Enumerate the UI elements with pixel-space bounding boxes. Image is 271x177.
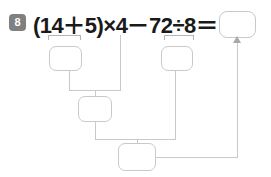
connector-level3-horizontal [95, 139, 176, 140]
equation-expression: (14＋5)×4－72÷8＝ [33, 8, 217, 38]
connector-arrow-vertical [237, 41, 238, 158]
connector-into-difference-box [137, 139, 138, 144]
step-box-sum[interactable] [49, 46, 82, 71]
problem-number-badge: 8 [9, 14, 26, 31]
step-box-product[interactable] [78, 96, 112, 122]
connector-sum-down [69, 71, 70, 91]
arrow-up-icon [233, 36, 241, 43]
worksheet-problem-canvas: 8 (14＋5)×4－72÷8＝ [0, 0, 271, 177]
bracket-under-sum [48, 35, 81, 40]
step-box-quotient[interactable] [161, 46, 193, 71]
bracket-under-quotient [164, 35, 194, 40]
answer-box[interactable] [219, 11, 256, 38]
step-box-difference[interactable] [118, 143, 156, 171]
connector-times-four-vertical [120, 35, 121, 91]
connector-difference-to-arrow [156, 157, 238, 158]
connector-product-down [95, 122, 96, 140]
connector-into-product-box [95, 90, 96, 97]
connector-quotient-down [175, 71, 176, 140]
